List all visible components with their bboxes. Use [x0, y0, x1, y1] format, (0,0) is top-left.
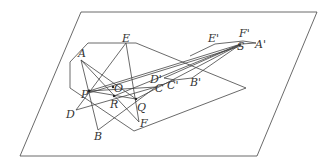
label-A: A — [77, 47, 86, 60]
label-R: R — [109, 98, 118, 111]
label-B: B — [93, 130, 102, 143]
label-B-prime: B' — [189, 76, 201, 89]
label-D-prime: D' — [149, 73, 162, 86]
label-Q: Q — [137, 101, 146, 114]
label-P: P — [80, 88, 89, 101]
label-E: E — [121, 32, 130, 45]
label-S: S — [237, 40, 245, 53]
geometry-diagram: A E P O R Q C D' C' B' D B F S A' E' F' — [0, 0, 334, 168]
label-F-prime: F' — [238, 27, 250, 40]
label-A-prime: A' — [254, 38, 266, 51]
label-D: D — [65, 108, 75, 121]
label-F: F — [139, 117, 148, 130]
label-E-prime: E' — [207, 32, 219, 45]
label-O: O — [114, 82, 123, 95]
label-C-prime: C' — [167, 79, 178, 92]
